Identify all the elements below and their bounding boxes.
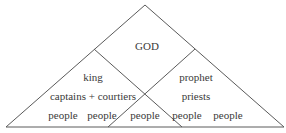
people-label-3: people [130, 110, 159, 121]
people-label-2: people [87, 110, 116, 121]
king-label: king [83, 72, 103, 83]
captains-courtiers-label: captains + courtiers [50, 91, 136, 102]
people-label-5: people [213, 110, 242, 121]
people-label-1: people [48, 110, 77, 121]
god-label: GOD [135, 41, 159, 52]
priests-label: priests [182, 91, 211, 102]
prophet-label: prophet [179, 72, 213, 83]
people-label-4: people [172, 110, 201, 121]
